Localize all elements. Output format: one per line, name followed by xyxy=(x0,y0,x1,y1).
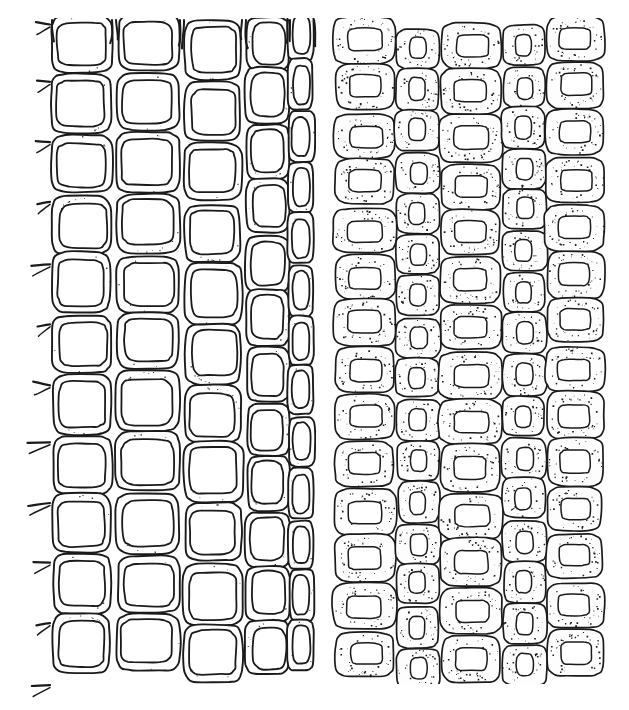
cell xyxy=(335,254,395,300)
cell xyxy=(247,346,290,401)
cell-lumen xyxy=(253,185,286,227)
cell xyxy=(247,404,290,456)
cell-lumen xyxy=(250,517,285,560)
cell xyxy=(182,563,242,625)
cell-lumen xyxy=(59,322,107,366)
cell xyxy=(547,583,605,628)
cell xyxy=(334,441,393,487)
cell-lumen xyxy=(251,295,284,339)
cell xyxy=(547,298,603,342)
cell-lumen xyxy=(350,405,382,427)
cell-lumen xyxy=(121,439,174,485)
cell-lumen xyxy=(515,240,532,262)
cell-lumen xyxy=(558,405,590,428)
cell xyxy=(336,64,395,110)
cell xyxy=(287,365,313,414)
cell-lumen xyxy=(410,657,427,679)
cell-lumen xyxy=(292,370,310,408)
cell-lumen xyxy=(123,22,172,65)
cell-lumen xyxy=(122,199,174,245)
cell-lumen xyxy=(251,410,283,451)
cell-lumen xyxy=(410,244,427,265)
cell-lumen xyxy=(292,219,310,258)
cell xyxy=(115,370,180,431)
cell xyxy=(53,554,111,614)
cell xyxy=(546,534,603,578)
cell-lumen xyxy=(58,443,106,487)
cell xyxy=(288,162,313,212)
cell-lumen xyxy=(516,321,533,344)
cell-lumen xyxy=(189,630,236,675)
cell xyxy=(335,346,394,392)
cell-lumen xyxy=(516,571,532,593)
cell-lumen xyxy=(454,411,489,433)
cell-lumen xyxy=(410,162,427,184)
cell-lumen xyxy=(121,379,172,426)
cell xyxy=(246,124,289,179)
cell-lumen xyxy=(121,619,172,662)
cell xyxy=(545,347,605,393)
cell-lumen xyxy=(58,621,104,668)
cell xyxy=(503,67,545,107)
cell xyxy=(288,521,314,569)
cell xyxy=(332,582,397,629)
cell-lumen xyxy=(517,78,533,100)
cell xyxy=(501,106,545,149)
cell-lumen xyxy=(410,534,427,556)
cell-lumen xyxy=(454,551,488,574)
cell-lumen xyxy=(189,149,236,192)
cell-lumen xyxy=(251,354,283,396)
cell-lumen xyxy=(293,526,310,563)
cell xyxy=(440,443,500,492)
cell xyxy=(51,73,111,133)
cell-lumen xyxy=(350,126,383,148)
cell-lumen xyxy=(456,35,488,57)
cell xyxy=(441,164,500,210)
cell xyxy=(544,205,605,252)
cell xyxy=(503,25,545,65)
cell xyxy=(118,555,180,612)
cell-lumen xyxy=(410,327,427,349)
cell-lumen xyxy=(454,126,489,150)
cell-lumen xyxy=(454,365,489,388)
cell-lumen xyxy=(558,263,589,286)
cell-lumen xyxy=(515,35,531,56)
cell-lumen xyxy=(349,170,382,192)
cell-lumen xyxy=(348,547,381,570)
cell xyxy=(117,312,179,369)
cell-lumen xyxy=(455,221,487,243)
cell xyxy=(246,178,290,232)
cell-lumen xyxy=(293,15,311,54)
cell xyxy=(547,251,605,298)
cell-lumen xyxy=(454,79,486,101)
cell xyxy=(52,316,111,373)
cell xyxy=(396,29,440,69)
cell xyxy=(184,20,241,80)
cell-lumen xyxy=(517,447,534,470)
cell-lumen xyxy=(348,28,383,51)
cell xyxy=(440,537,502,586)
cell-lumen xyxy=(558,594,589,616)
cell-tissue-illustration xyxy=(0,0,629,710)
cell xyxy=(333,16,396,64)
cell xyxy=(245,512,290,568)
cell xyxy=(397,607,439,649)
cell xyxy=(395,524,441,564)
thin-walled-large-lumen-tissue xyxy=(28,9,316,697)
cell-lumen xyxy=(516,282,532,303)
cell xyxy=(398,481,440,523)
cell-lumen xyxy=(59,561,105,606)
figure-root xyxy=(0,0,629,710)
cell-lumen xyxy=(192,330,237,376)
cell-column xyxy=(51,15,113,673)
cell-lumen xyxy=(410,492,426,515)
cell-lumen xyxy=(516,363,533,386)
cell xyxy=(115,493,179,554)
cell-lumen xyxy=(251,129,284,172)
cell-lumen xyxy=(516,612,533,635)
cell-lumen xyxy=(122,500,174,546)
cell xyxy=(395,153,440,194)
cell-lumen xyxy=(347,596,381,618)
cell xyxy=(289,315,314,364)
cell xyxy=(287,212,313,263)
